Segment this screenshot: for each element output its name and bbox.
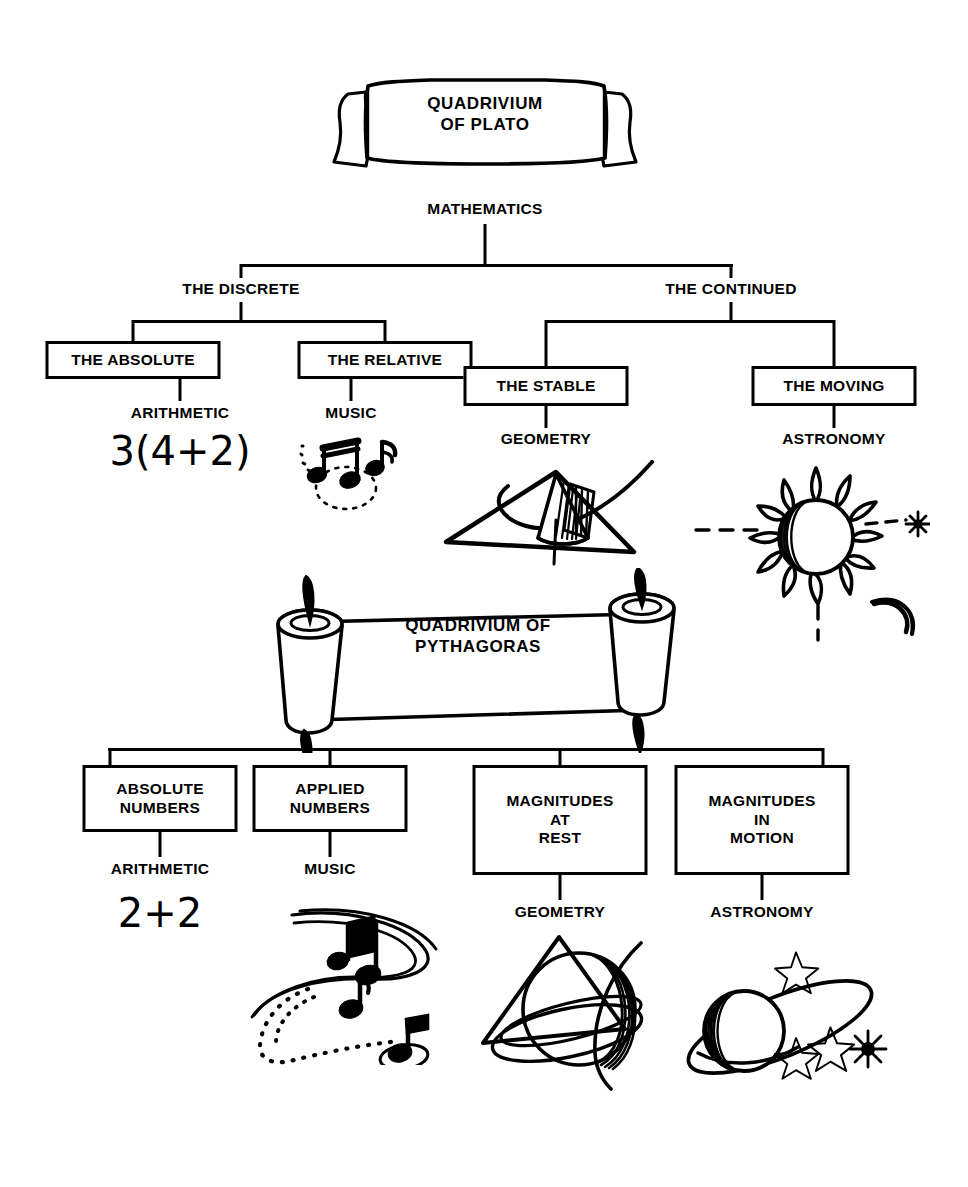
connector-pythagoras-bus (108, 748, 824, 751)
connector-discrete-stem (240, 302, 243, 322)
arithmetic-expression-plato: 3(4+2) (109, 428, 250, 474)
art-label-geometry-pythagoras: GEOMETRY (515, 903, 606, 921)
music-notes-swirl-icon (250, 905, 490, 1065)
node-the-absolute[interactable]: THE ABSOLUTE (46, 341, 221, 379)
node-applied-numbers[interactable]: APPLIED NUMBERS (253, 765, 408, 832)
connector-pyth-drop-3 (559, 748, 562, 766)
connector-continued-drop-right (833, 320, 836, 368)
connector-absolute-numbers-to-arithmetic (159, 832, 162, 857)
connector-magnitudes-rest-to-geometry (559, 875, 562, 900)
connector-drop-continued (730, 264, 733, 278)
connector-relative-to-music (350, 379, 353, 401)
art-label-geometry-plato: GEOMETRY (501, 430, 592, 448)
connector-discrete-bus (132, 320, 386, 323)
connector-discrete-drop-left (132, 320, 135, 343)
art-label-astronomy-plato: ASTRONOMY (782, 430, 885, 448)
quadrivium-diagram: QUADRIVIUM OF PLATO MATHEMATICS THE DISC… (0, 0, 968, 1187)
geometry-cone-triangle-icon (438, 460, 668, 580)
node-magnitudes-in-motion[interactable]: MAGNITUDES IN MOTION (675, 765, 850, 875)
node-magnitudes-in-motion-label: MAGNITUDES IN MOTION (700, 792, 823, 849)
art-label-astronomy-pythagoras: ASTRONOMY (710, 903, 813, 921)
quadrivium-of-plato-banner: QUADRIVIUM OF PLATO (310, 70, 660, 185)
connector-continued-bus (545, 320, 835, 323)
connector-magnitudes-motion-to-astronomy (761, 875, 764, 900)
connector-applied-numbers-to-music (329, 832, 332, 857)
connector-root-stem (484, 224, 487, 266)
connector-pyth-drop-2 (329, 748, 332, 766)
arithmetic-expression-pythagoras: 2+2 (118, 890, 202, 936)
connector-pyth-drop-4 (822, 748, 825, 766)
connector-continued-drop-left (545, 320, 548, 368)
plato-banner-text: QUADRIVIUM OF PLATO (310, 94, 660, 135)
connector-absolute-to-arithmetic (179, 379, 182, 401)
node-absolute-numbers[interactable]: ABSOLUTE NUMBERS (83, 765, 238, 832)
connector-pyth-drop-1 (109, 748, 112, 766)
pythagoras-banner-text: QUADRIVIUM OF PYTHAGORAS (318, 616, 638, 657)
music-notes-icon (296, 436, 408, 516)
art-label-arithmetic-pythagoras: ARITHMETIC (111, 860, 210, 878)
connector-drop-discrete (240, 264, 243, 278)
art-label-arithmetic-plato: ARITHMETIC (131, 404, 230, 422)
node-the-stable-label: THE STABLE (488, 377, 603, 396)
node-magnitudes-at-rest-label: MAGNITUDES AT REST (498, 792, 621, 849)
node-the-absolute-label: THE ABSOLUTE (63, 351, 203, 370)
node-the-relative[interactable]: THE RELATIVE (298, 341, 473, 379)
plato-root-label: MATHEMATICS (427, 200, 543, 218)
branch-label-continued: THE CONTINUED (665, 280, 796, 298)
geometry-sphere-triangle-icon (475, 925, 675, 1095)
branch-label-discrete: THE DISCRETE (182, 280, 299, 298)
node-applied-numbers-label: APPLIED NUMBERS (282, 780, 378, 818)
connector-root-bus (240, 264, 733, 267)
node-the-stable[interactable]: THE STABLE (464, 366, 629, 406)
connector-stable-to-geometry (545, 406, 548, 428)
quadrivium-of-pythagoras-scroll: QUADRIVIUM OF PYTHAGORAS (258, 568, 698, 753)
node-the-moving[interactable]: THE MOVING (752, 366, 917, 406)
node-magnitudes-at-rest[interactable]: MAGNITUDES AT REST (473, 765, 648, 875)
art-label-music-plato: MUSIC (325, 404, 376, 422)
connector-discrete-drop-right (384, 320, 387, 343)
connector-moving-to-astronomy (833, 406, 836, 428)
art-label-music-pythagoras: MUSIC (304, 860, 355, 878)
connector-continued-stem (730, 302, 733, 322)
node-the-relative-label: THE RELATIVE (320, 351, 450, 370)
ringed-planet-stars-icon (672, 935, 912, 1110)
sun-moon-star-icon (690, 462, 930, 642)
node-absolute-numbers-label: ABSOLUTE NUMBERS (108, 780, 212, 818)
node-the-moving-label: THE MOVING (775, 377, 892, 396)
